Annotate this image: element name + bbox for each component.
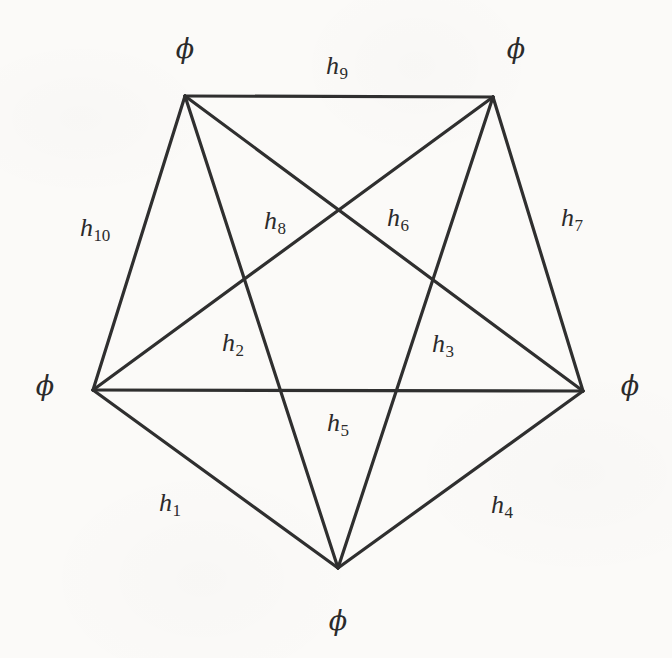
edge-label-subscript: 9	[340, 65, 348, 84]
edge-h4	[338, 391, 583, 568]
edge-label-subscript: 3	[446, 343, 454, 362]
edge-label-base: h	[387, 203, 400, 232]
edge-label-h10: h10	[80, 215, 110, 244]
edge-label-base: h	[159, 488, 172, 517]
edge-h3	[338, 97, 493, 568]
edge-label-base: h	[326, 51, 339, 80]
graph-edges-svg	[0, 0, 672, 658]
edge-label-base: h	[264, 206, 277, 235]
figure-canvas: h1h2h3h4h5h6h7h8h9h10ϕϕϕϕϕ	[0, 0, 672, 658]
edge-label-h4: h4	[491, 492, 513, 521]
edge-label-base: h	[222, 328, 235, 357]
edge-h5	[93, 390, 583, 391]
edge-label-subscript: 8	[278, 220, 286, 239]
edge-label-h6: h6	[387, 205, 409, 234]
edge-label-subscript: 10	[93, 227, 110, 246]
edge-h2	[185, 96, 338, 568]
edge-label-h9: h9	[326, 53, 348, 82]
edge-label-h2: h2	[222, 330, 244, 359]
vertex-label-v-right: ϕ	[621, 372, 639, 399]
edge-label-h1: h1	[159, 490, 181, 519]
edge-label-subscript: 6	[401, 217, 409, 236]
vertex-label-v-top-left: ϕ	[176, 35, 194, 62]
vertex-label-v-bottom: ϕ	[329, 607, 347, 634]
edge-label-base: h	[491, 490, 504, 519]
edge-h8	[185, 96, 583, 391]
edge-label-subscript: 4	[505, 504, 513, 523]
edge-label-base: h	[80, 213, 93, 242]
edge-h9	[185, 96, 493, 97]
edge-h7	[493, 97, 583, 391]
edge-h1	[93, 390, 338, 568]
edge-label-subscript: 5	[341, 422, 349, 441]
edge-label-subscript: 2	[236, 342, 244, 361]
edge-label-h8: h8	[264, 208, 286, 237]
vertex-label-v-top-right: ϕ	[507, 35, 525, 62]
vertex-label-v-left: ϕ	[36, 372, 54, 399]
edge-label-h7: h7	[561, 205, 583, 234]
edge-label-subscript: 1	[173, 502, 181, 521]
edge-label-h3: h3	[432, 331, 454, 360]
edge-label-base: h	[432, 329, 445, 358]
edge-label-base: h	[327, 408, 340, 437]
edge-label-h5: h5	[327, 410, 349, 439]
edge-label-subscript: 7	[575, 217, 583, 236]
edge-label-base: h	[561, 203, 574, 232]
